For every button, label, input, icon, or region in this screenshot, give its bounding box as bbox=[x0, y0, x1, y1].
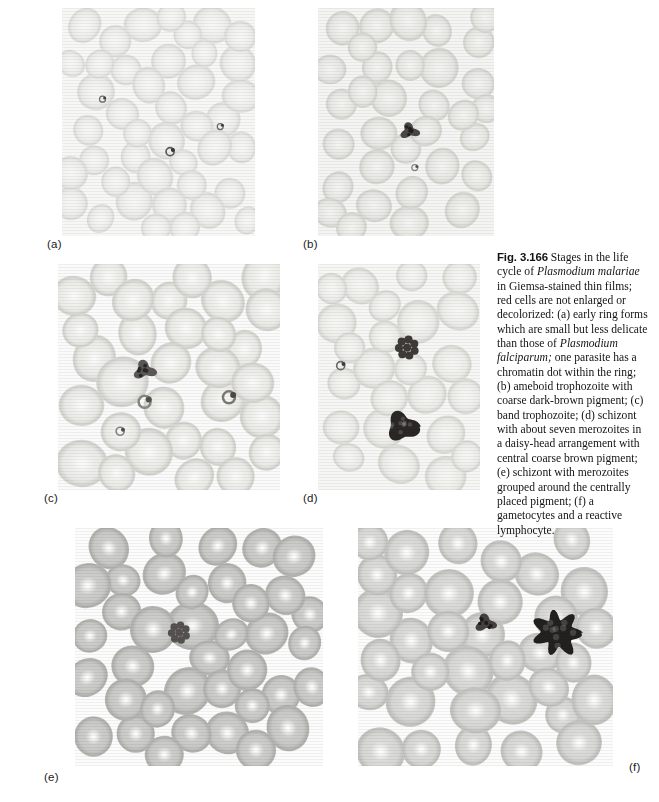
blood-smear-image bbox=[58, 264, 280, 490]
blood-smear-image bbox=[358, 528, 613, 766]
micrograph-panel-a bbox=[62, 8, 255, 236]
panel-label-a: (a) bbox=[47, 239, 62, 251]
panel-label-d: (d) bbox=[303, 493, 318, 505]
micrograph-panel-d bbox=[318, 264, 480, 490]
caption-segment: Plasmodium malariae bbox=[537, 265, 640, 278]
figure-caption: Fig. 3.166 Stages in the life cycle of P… bbox=[497, 250, 649, 538]
panel-label-b: (b) bbox=[303, 239, 318, 251]
micrograph-panel-f bbox=[358, 528, 613, 766]
blood-smear-image bbox=[318, 8, 494, 236]
panel-label-e: (e) bbox=[44, 772, 59, 784]
panel-label-f: (f) bbox=[629, 762, 640, 774]
caption-segment: one parasite has a chromatin dot within … bbox=[497, 351, 643, 536]
caption-segment: Fig. 3.166 bbox=[497, 251, 548, 263]
micrograph-panel-b bbox=[318, 8, 494, 236]
figure-page: (a) (b) (c) (d) (e) (f) Fig. 3.166 Stage… bbox=[0, 0, 659, 802]
panel-label-c: (c) bbox=[44, 493, 58, 505]
blood-smear-image bbox=[318, 264, 480, 490]
micrograph-panel-c bbox=[58, 264, 280, 490]
blood-smear-image bbox=[62, 8, 255, 236]
micrograph-panel-e bbox=[75, 528, 323, 766]
blood-smear-image bbox=[75, 528, 323, 766]
